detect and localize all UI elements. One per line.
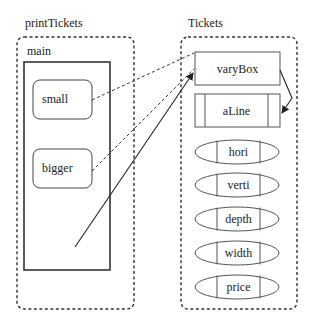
width-label: width (225, 246, 252, 260)
depth-node[interactable]: depth (195, 207, 279, 231)
small-node[interactable]: small (33, 80, 92, 119)
aline-node[interactable]: aLine (195, 94, 280, 127)
hori-node[interactable]: hori (195, 140, 279, 164)
depth-label: depth (225, 212, 252, 226)
varybox-label: varyBox (217, 62, 258, 76)
width-node[interactable]: width (195, 241, 279, 265)
small-label: small (42, 92, 69, 106)
hori-label: hori (229, 145, 249, 159)
price-label: price (227, 280, 251, 294)
bigger-node[interactable]: bigger (33, 149, 92, 188)
diagram-canvas: printTickets main small bigger Tickets v… (0, 0, 313, 326)
varybox-to-aline-arrow (280, 70, 292, 113)
verti-label: verti (228, 178, 251, 192)
bigger-label: bigger (42, 161, 73, 175)
main-label: main (27, 44, 51, 58)
small-to-varybox-connector (92, 53, 194, 100)
verti-node[interactable]: verti (195, 173, 279, 197)
bigger-to-varybox-connector (92, 69, 194, 171)
varybox-node[interactable]: varyBox (195, 52, 280, 85)
aline-label: aLine (223, 104, 250, 118)
tickets-label: Tickets (188, 16, 223, 30)
price-node[interactable]: price (195, 275, 279, 299)
main-to-varybox-arrow (75, 73, 193, 247)
print-tickets-label: printTickets (25, 16, 83, 30)
